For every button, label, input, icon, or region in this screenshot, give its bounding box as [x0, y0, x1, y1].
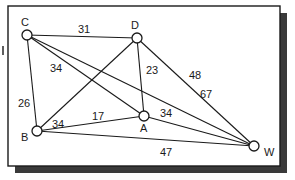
node-label-a: A — [140, 122, 148, 134]
edge-weight-c-b: 26 — [18, 97, 30, 109]
edge-weight-c-a: 34 — [50, 62, 62, 74]
edge-weight-d-a: 23 — [146, 64, 158, 76]
edge-weight-d-b: 34 — [52, 118, 64, 130]
edge-weight-d-w: 48 — [189, 69, 201, 81]
node-w — [249, 141, 259, 151]
node-d — [132, 33, 142, 43]
node-a — [139, 111, 149, 121]
edge-weight-a-w: 34 — [160, 107, 172, 119]
node-label-w: W — [264, 146, 275, 158]
node-label-b: B — [21, 131, 28, 143]
edge-weight-b-w: 47 — [160, 146, 172, 158]
node-label-d: D — [131, 19, 139, 31]
node-label-c: C — [21, 16, 29, 28]
edge-weight-c-w: 67 — [200, 88, 212, 100]
edge-weight-c-d: 31 — [78, 23, 90, 35]
node-b — [32, 126, 42, 136]
node-c — [22, 30, 32, 40]
edge-weight-b-a: 17 — [92, 110, 104, 122]
graph-diagram: 31263467342348174734 CDBAW — [0, 0, 295, 180]
